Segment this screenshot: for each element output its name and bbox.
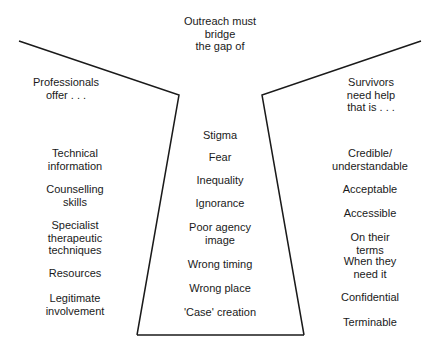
offer-item: Resources — [49, 267, 102, 280]
right-header: Survivors need help that is . . . — [339, 76, 404, 114]
need-item: Confidential — [341, 291, 399, 304]
barrier-item: 'Case' creation — [184, 306, 256, 319]
offer-item: Legitimate involvement — [46, 292, 105, 317]
barrier-item: Poor agency image — [189, 221, 251, 246]
offer-item: Counselling skills — [46, 183, 103, 208]
barrier-item: Wrong timing — [188, 258, 253, 271]
barrier-item: Ignorance — [196, 197, 245, 210]
need-item: Terminable — [343, 316, 397, 329]
barrier-item: Stigma — [203, 129, 237, 142]
offer-item: Specialist therapeutic techniques — [48, 219, 102, 257]
barrier-item: Fear — [209, 151, 232, 164]
need-item: Acceptable — [343, 183, 397, 196]
need-item: Credible/ understandable — [332, 147, 408, 172]
barrier-item: Wrong place — [189, 282, 251, 295]
barrier-item: Inequality — [196, 174, 243, 187]
need-item: Accessible — [344, 207, 397, 220]
need-item: On their terms — [337, 231, 403, 256]
offer-item: Technical information — [48, 147, 102, 172]
left-header: Professionals offer . . . — [33, 76, 99, 101]
center-header: Outreach must bridge the gap of — [184, 15, 256, 53]
need-item: When they need it — [344, 255, 397, 280]
